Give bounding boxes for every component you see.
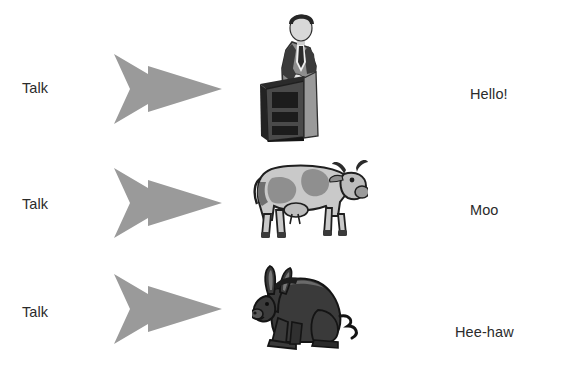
stimulus-label: Talk bbox=[22, 196, 108, 212]
diagram-canvas: Talk bbox=[0, 0, 565, 376]
diagram-row: Talk bbox=[0, 124, 565, 240]
response-label: Hee-haw bbox=[455, 324, 514, 340]
diagram-row: Talk bbox=[0, 6, 565, 122]
speaker-at-podium-illustration bbox=[252, 6, 362, 142]
stimulus-label: Talk bbox=[22, 304, 108, 320]
diagram-row: Talk bbox=[0, 240, 565, 356]
right-arrow-icon bbox=[110, 52, 222, 126]
right-arrow-icon bbox=[110, 272, 222, 346]
response-label: Hello! bbox=[470, 86, 508, 102]
donkey-illustration bbox=[252, 256, 372, 356]
right-arrow-icon bbox=[110, 166, 222, 240]
response-label: Moo bbox=[470, 202, 499, 218]
cow-illustration bbox=[252, 150, 368, 242]
stimulus-label: Talk bbox=[22, 80, 108, 96]
